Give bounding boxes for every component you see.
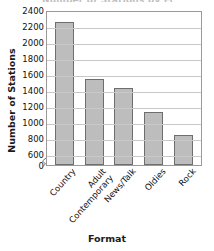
bar-slot [109,12,139,165]
gridline [47,28,201,29]
gridline [47,124,201,125]
y-tick-label: 1800 [16,55,44,63]
gridline [47,156,201,157]
y-tick-label: 1200 [16,103,44,111]
y-axis-tick-labels: 240022002000180016001400120010008006000 [16,8,44,173]
y-tick-label: 2200 [16,23,44,31]
x-axis-title: Format [0,233,214,244]
bar-slot [50,12,80,165]
plot-area [46,11,202,166]
y-axis-title: Number of Stations [6,36,17,166]
bar-chart: Number of Stations by Format Number of S… [0,0,214,251]
bar-slot [168,12,198,165]
bar-slot [139,12,169,165]
gridline [47,76,201,77]
y-tick-label: 2400 [16,7,44,15]
y-tick-label: 800 [16,135,44,143]
gridline [47,140,201,141]
gridline [47,92,201,93]
y-tick-label: 2000 [16,39,44,47]
chart-title-fragment: Number of Stations by Format [42,0,172,2]
y-tick-label: 1000 [16,119,44,127]
gridline [47,108,201,109]
bar-series [47,12,201,165]
y-tick-label: 1400 [16,87,44,95]
gridline [47,44,201,45]
x-axis-tick-labels: CountryAdult ContemporaryNews/TalkOldies… [46,167,202,225]
y-tick-label: 1600 [16,71,44,79]
bar[interactable] [114,88,133,165]
bar-slot [80,12,110,165]
gridline [47,60,201,61]
